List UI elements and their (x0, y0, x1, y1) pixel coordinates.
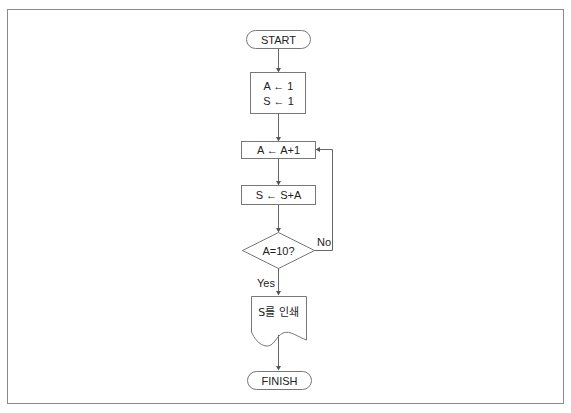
arrowhead-icon (276, 68, 281, 73)
init-line-2: S ← 1 (263, 95, 294, 107)
decision-label: A=10? (262, 245, 294, 257)
increment-label: A ← A+1 (257, 144, 300, 156)
accumulate-label: S ← S+A (256, 189, 302, 201)
connector-init-to-increment (276, 114, 281, 142)
yes-label: Yes (257, 277, 275, 289)
connector-accumulate-to-decision (276, 205, 281, 233)
increment-process-box: A ← A+1 (242, 142, 316, 159)
connector-no-loop: No (315, 147, 333, 251)
accumulate-process-box: S ← S+A (242, 186, 316, 205)
connector-yes: Yes (257, 269, 281, 296)
connector-start-to-init (276, 49, 281, 73)
init-line-1: A ← 1 (264, 80, 294, 92)
finish-label: FINISH (261, 375, 297, 387)
arrowhead-icon (276, 137, 281, 142)
no-label: No (317, 236, 331, 248)
finish-terminal: FINISH (248, 372, 312, 390)
start-terminal: START (247, 31, 311, 49)
connector-output-to-finish (276, 335, 281, 371)
decision-diamond: A=10? (243, 233, 315, 269)
arrowhead-icon (276, 228, 281, 233)
arrowhead-icon (276, 366, 281, 371)
arrowhead-icon (316, 147, 321, 152)
arrowhead-icon (276, 291, 281, 296)
connector-increment-to-accumulate (276, 159, 281, 186)
flowchart: START A ← 1 S ← 1 A ← A+1 S ← S+A A=10? (0, 0, 571, 413)
start-label: START (261, 34, 296, 46)
output-label: S를 인쇄 (258, 306, 298, 319)
init-process-box: A ← 1 S ← 1 (251, 73, 306, 114)
arrowhead-icon (276, 181, 281, 186)
